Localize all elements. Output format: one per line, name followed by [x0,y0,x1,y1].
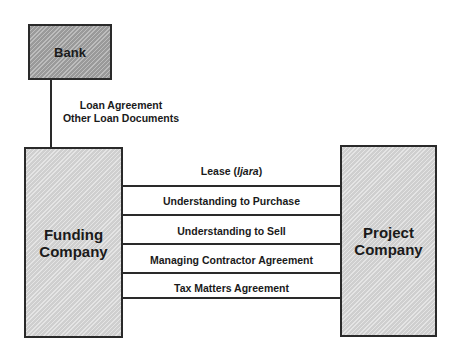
agreement-line-managing-contractor [122,272,341,274]
project-label-line2: Company [354,241,422,258]
project-label-line1: Project [354,224,422,241]
bank-funding-connector [50,79,52,148]
agreement-line-lease [122,185,341,187]
agreement-line-understanding-to-sell [122,243,341,245]
agreement-label-understanding-to-purchase: Understanding to Purchase [122,195,341,207]
lease-suffix: ) [259,165,263,177]
lease-italic-term: Ijara [237,165,259,177]
loan-documents-label: Loan Agreement Other Loan Documents [62,99,180,125]
bank-label: Bank [54,45,86,60]
lease-prefix: Lease ( [201,165,237,177]
agreement-line-understanding-to-purchase [122,214,341,216]
agreement-line-tax-matters [122,297,341,299]
loan-agreement-text: Loan Agreement [62,99,180,112]
funding-company-box: Funding Company [24,147,123,338]
funding-label-line1: Funding [39,226,107,243]
agreement-label-lease: Lease (Ijara) [122,165,341,177]
bank-box: Bank [28,24,112,80]
other-loan-documents-text: Other Loan Documents [62,112,180,125]
agreement-label-understanding-to-sell: Understanding to Sell [122,225,341,237]
agreement-label-managing-contractor: Managing Contractor Agreement [122,254,341,266]
agreement-label-tax-matters: Tax Matters Agreement [122,282,341,294]
project-company-box: Project Company [340,145,437,337]
funding-label-line2: Company [39,243,107,260]
